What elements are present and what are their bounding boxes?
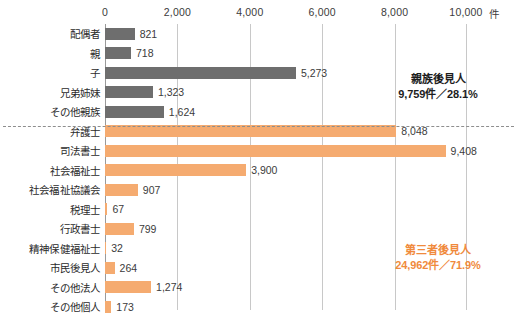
annotation-third-value: 24,962件／71.9% [378, 258, 498, 273]
annotation-third-title: 第三者後見人 [378, 243, 498, 258]
table-row: 行政書士 799 [0, 219, 517, 239]
axis-unit-label: 件 [489, 6, 499, 21]
bar-wrap: 67 [105, 203, 107, 215]
bar-child [105, 67, 296, 79]
row-label-other-corporation: その他法人 [50, 280, 101, 295]
table-row: 司法書士 9,408 [0, 141, 517, 161]
row-label-judicial-scrivener: 司法書士 [60, 143, 100, 158]
bar-judicial-scrivener [105, 145, 446, 157]
bar-wrap: 5,273 [105, 67, 296, 79]
bar-wrap: 32 [105, 242, 106, 254]
bar-wrap: 1,274 [105, 281, 151, 293]
table-row: その他法人 1,274 [0, 278, 517, 298]
row-label-child: 子 [90, 65, 100, 80]
bar-citizen-guardian [105, 262, 115, 274]
bar-chart: 0 2,000 4,000 6,000 8,000 10,000 件 配偶者 8… [0, 0, 517, 321]
table-row: 社会福祉士 3,900 [0, 161, 517, 181]
xtick-label-10000: 10,000 [449, 6, 482, 18]
bar-value-spouse: 821 [135, 28, 158, 40]
bar-other-relative [105, 106, 164, 118]
row-label-parent: 親 [90, 46, 100, 61]
bar-value-other-individual: 173 [111, 301, 134, 313]
bar-wrap: 173 [105, 301, 111, 313]
annotation-third-party-guardian: 第三者後見人 24,962件／71.9% [378, 243, 498, 272]
bar-value-child: 5,273 [296, 67, 327, 79]
annotation-kin-value: 9,759件／28.1% [378, 87, 498, 102]
table-row: 税理士 67 [0, 200, 517, 220]
xtick-label-6000: 6,000 [309, 6, 336, 18]
bar-rows: 配偶者 821 親 718 子 5,273 兄弟姉妹 1,323 [0, 24, 517, 317]
bar-value-other-relative: 1,624 [164, 106, 195, 118]
bar-wrap: 3,900 [105, 164, 246, 176]
bar-wrap: 718 [105, 47, 131, 59]
bar-wrap: 8,048 [105, 125, 396, 137]
bar-value-parent: 718 [131, 47, 154, 59]
bar-social-worker [105, 164, 246, 176]
annotation-kin-guardian: 親族後見人 9,759件／28.1% [378, 72, 498, 101]
row-label-administrative-scrivener: 行政書士 [60, 221, 100, 236]
bar-spouse [105, 28, 135, 40]
xtick-label-0: 0 [102, 6, 108, 18]
bar-lawyer [105, 125, 396, 137]
bar-value-lawyer: 8,048 [396, 125, 427, 137]
table-row: その他個人 173 [0, 297, 517, 317]
row-label-citizen-guardian: 市民後見人 [50, 260, 101, 275]
table-row: 社会福祉協議会 907 [0, 180, 517, 200]
group-divider [3, 126, 514, 127]
row-label-other-individual: その他個人 [50, 299, 101, 314]
row-label-council-social-welfare: 社会福祉協議会 [29, 182, 100, 197]
bar-value-tax-accountant: 67 [107, 203, 124, 215]
bar-wrap: 9,408 [105, 145, 446, 157]
bar-wrap: 821 [105, 28, 135, 40]
bar-value-sibling: 1,323 [153, 86, 184, 98]
bar-value-council-social-welfare: 907 [138, 184, 161, 196]
xtick-label-4000: 4,000 [236, 6, 263, 18]
table-row: その他親族 1,624 [0, 102, 517, 122]
bar-wrap: 1,624 [105, 106, 164, 118]
bar-value-administrative-scrivener: 799 [134, 223, 157, 235]
bar-council-social-welfare [105, 184, 138, 196]
row-label-spouse: 配偶者 [70, 26, 100, 41]
row-label-tax-accountant: 税理士 [70, 202, 100, 217]
bar-wrap: 1,323 [105, 86, 153, 98]
annotation-kin-title: 親族後見人 [378, 72, 498, 87]
bar-sibling [105, 86, 153, 98]
bar-value-social-worker: 3,900 [246, 164, 277, 176]
row-label-social-worker: 社会福祉士 [50, 163, 101, 178]
table-row: 親 718 [0, 44, 517, 64]
table-row: 配偶者 821 [0, 24, 517, 44]
row-label-other-relative: その他親族 [50, 104, 101, 119]
bar-wrap: 907 [105, 184, 138, 196]
table-row: 弁護士 8,048 [0, 122, 517, 142]
row-label-mental-health-worker: 精神保健福祉士 [29, 241, 100, 256]
bar-value-other-corporation: 1,274 [151, 281, 182, 293]
row-label-sibling: 兄弟姉妹 [60, 85, 100, 100]
bar-parent [105, 47, 131, 59]
bar-administrative-scrivener [105, 223, 134, 235]
bar-value-judicial-scrivener: 9,408 [446, 145, 477, 157]
xtick-label-2000: 2,000 [164, 6, 191, 18]
bar-value-mental-health-worker: 32 [106, 242, 123, 254]
xtick-label-8000: 8,000 [381, 6, 408, 18]
bar-value-citizen-guardian: 264 [115, 262, 138, 274]
bar-other-corporation [105, 281, 151, 293]
bar-wrap: 799 [105, 223, 134, 235]
bar-wrap: 264 [105, 262, 115, 274]
